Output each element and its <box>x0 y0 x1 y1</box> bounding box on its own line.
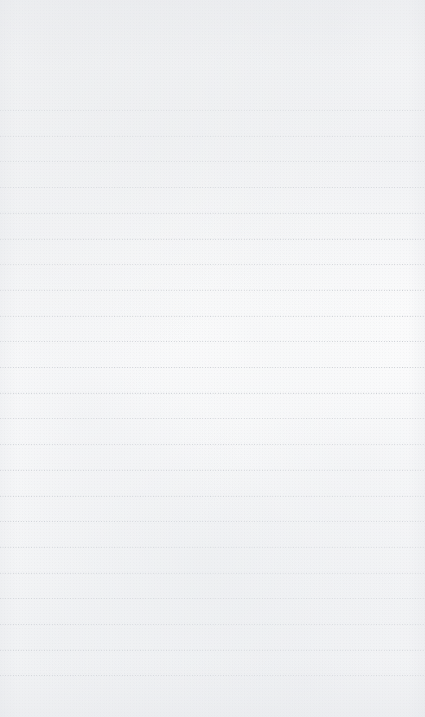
rule-line <box>0 444 425 445</box>
rule-line <box>0 547 425 548</box>
rule-line <box>0 110 425 111</box>
rule-line <box>0 573 425 574</box>
rule-line-layer <box>0 0 425 717</box>
rule-line <box>0 521 425 522</box>
rule-line <box>0 161 425 162</box>
rule-line <box>0 213 425 214</box>
rule-line <box>0 470 425 471</box>
rule-line <box>0 393 425 394</box>
rule-line <box>0 650 425 651</box>
rule-line <box>0 136 425 137</box>
lined-notepad-page[interactable] <box>0 0 425 717</box>
rule-line <box>0 496 425 497</box>
rule-line <box>0 418 425 419</box>
rule-line <box>0 598 425 599</box>
rule-line <box>0 264 425 265</box>
rule-line <box>0 624 425 625</box>
rule-line <box>0 316 425 317</box>
rule-line <box>0 239 425 240</box>
rule-line <box>0 187 425 188</box>
rule-line <box>0 367 425 368</box>
rule-line <box>0 675 425 676</box>
rule-line <box>0 341 425 342</box>
rule-line <box>0 290 425 291</box>
